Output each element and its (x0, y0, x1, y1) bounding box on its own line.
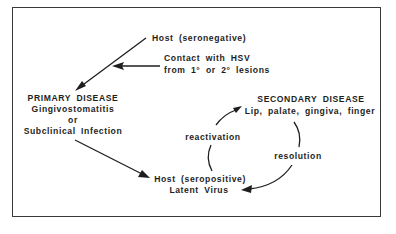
contact-label-line2: from 1° or 2° lesions (164, 65, 270, 75)
arrow-primary-to-seropositive (75, 140, 150, 178)
contact-label-line1: Contact with HSV (164, 53, 250, 63)
arc-resolution-upper (294, 122, 300, 147)
reactivation-label: reactivation (185, 132, 240, 142)
resolution-label: resolution (274, 151, 322, 161)
arrow-seronegative-to-primary (75, 38, 146, 91)
arrow-resolution-to-host (241, 165, 292, 193)
arrow-contact (112, 62, 160, 70)
primary-disease-line1: Gingivostomatitis (32, 104, 115, 114)
secondary-disease-sites: Lip, palate, gingiva, finger (245, 106, 375, 116)
primary-disease-title: PRIMARY DISEASE (28, 93, 119, 103)
hsv-cycle-diagram: Host (seronegative) Contact with HSV fro… (0, 0, 396, 234)
host-seronegative-label: Host (seronegative) (152, 33, 246, 43)
primary-disease-line2: or (68, 115, 78, 125)
arrow-reactivation-to-secondary (216, 106, 242, 125)
host-seropositive-label: Host (seropositive) (154, 174, 246, 184)
arc-reactivation-lower (208, 145, 212, 171)
latent-virus-label: Latent Virus (169, 185, 228, 195)
primary-disease-line3: Subclinical Infection (24, 126, 123, 136)
secondary-disease-title: SECONDARY DISEASE (257, 94, 364, 104)
